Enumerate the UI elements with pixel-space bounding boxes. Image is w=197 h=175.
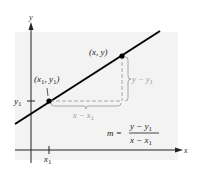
x-axis-label: x (183, 146, 188, 155)
y-axis-label: y (28, 13, 33, 22)
formula-lhs: m = (107, 128, 122, 138)
x-axis-arrow-icon (175, 148, 183, 153)
y-axis-arrow-icon (29, 22, 34, 30)
point-x1-y1 (46, 98, 51, 103)
point-x-y-label: (x, y) (89, 47, 107, 57)
slope-diagram: y x x1 y1 x − x1 y − y1 (x1, y1) (x, y) … (0, 0, 197, 175)
point-x-y (119, 53, 124, 58)
